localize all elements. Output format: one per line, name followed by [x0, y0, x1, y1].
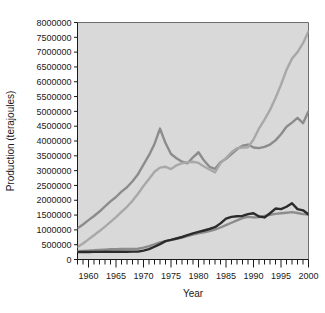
- x-axis-tick-label: 1980: [188, 271, 208, 281]
- y-axis-tick-label: 500000: [41, 240, 71, 250]
- y-axis-tick-label: 4000000: [36, 136, 71, 146]
- y-axis-tick-label: 5000000: [36, 107, 71, 117]
- x-axis-tick-label: 1965: [106, 271, 126, 281]
- line-chart: 0500000100000015000002000000250000030000…: [0, 0, 325, 313]
- x-axis-title: Year: [183, 288, 204, 299]
- x-axis-tick-label: 1995: [271, 271, 291, 281]
- x-axis-tick-label: 1985: [216, 271, 236, 281]
- y-axis-tick-label: 7000000: [36, 47, 71, 57]
- x-axis-tick-label: 2000: [298, 271, 318, 281]
- y-axis-tick-label: 1500000: [36, 210, 71, 220]
- y-axis-tick-label: 7500000: [36, 33, 71, 43]
- y-axis-tick-label: 8000000: [36, 18, 71, 28]
- x-axis-tick-label: 1990: [243, 271, 263, 281]
- x-axis-tick-label: 1975: [161, 271, 181, 281]
- x-axis-tick-label: 1960: [78, 271, 98, 281]
- y-axis-tick-label: 0: [66, 255, 71, 265]
- y-axis-tick-label: 5500000: [36, 92, 71, 102]
- y-axis-tick-label: 6000000: [36, 77, 71, 87]
- y-axis-tick-label: 3000000: [36, 166, 71, 176]
- y-axis-tick-label: 4500000: [36, 121, 71, 131]
- x-axis-tick-label: 1970: [133, 271, 153, 281]
- y-axis-title: Production (terajoules): [5, 91, 16, 192]
- y-axis-tick-label: 6500000: [36, 62, 71, 72]
- y-axis-tick-label: 2000000: [36, 195, 71, 205]
- y-axis-tick-label: 2500000: [36, 181, 71, 191]
- chart-figure: 0500000100000015000002000000250000030000…: [0, 0, 325, 313]
- y-axis-tick-label: 3500000: [36, 151, 71, 161]
- y-axis-tick-label: 1000000: [36, 225, 71, 235]
